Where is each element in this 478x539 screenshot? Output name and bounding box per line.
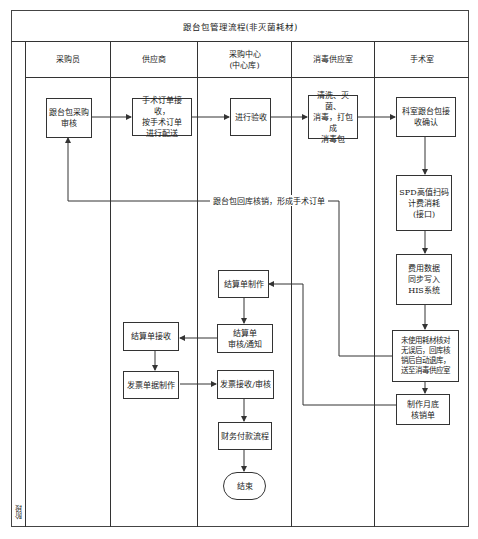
- node-center-accept[interactable]: 进行验收: [230, 98, 271, 136]
- node-sterile-process[interactable]: 清洗、灭菌、 消毒，打包成 消毒包: [308, 95, 358, 139]
- node-or-confirm[interactable]: 科室跟台包接 收确认: [396, 97, 456, 137]
- node-supplier-invoice-make[interactable]: 发票单据制作: [123, 371, 179, 399]
- node-supplier-settle-receive[interactable]: 结算单接收: [123, 322, 179, 351]
- node-supplier-receive[interactable]: 手术订单接收， 按手术订单 进行配送: [132, 98, 192, 136]
- node-or-monthly[interactable]: 制作月底 核销单: [396, 394, 450, 425]
- node-center-finance[interactable]: 财务付款流程: [218, 422, 272, 450]
- node-end[interactable]: 结束: [223, 472, 266, 500]
- node-center-settle-review[interactable]: 结算单 审核/通知: [217, 324, 273, 353]
- node-or-his[interactable]: 费用数据 同步写入 HIS系统: [396, 254, 452, 305]
- node-center-invoice-review[interactable]: 发票接收/审核: [217, 370, 274, 399]
- node-center-settle-make[interactable]: 结算单制作: [218, 270, 269, 298]
- node-or-unused[interactable]: 未使用耗材核对 无误后，回库核 销后自动退库， 送至消毒供应室: [392, 330, 459, 382]
- node-or-spd[interactable]: SPD高值扫码 计费消耗 (接口): [396, 175, 452, 231]
- node-buyer-review[interactable]: 跟台包采购 审核: [46, 98, 92, 138]
- return-loop-label: 跟台包回库核销，形成手术订单: [210, 195, 328, 206]
